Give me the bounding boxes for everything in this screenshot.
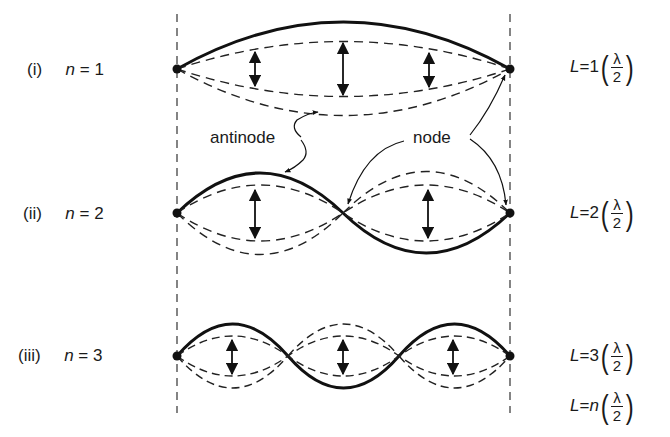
multiplier: n (589, 396, 598, 416)
fraction: λ 2 (611, 197, 623, 230)
n-variable: n (65, 204, 74, 223)
L-variable: L (570, 396, 579, 416)
equals-sign: = (78, 346, 88, 365)
L-variable: L (570, 57, 579, 77)
row-label-3: (iii) n = 3 (18, 346, 102, 366)
multiplier: 1 (589, 57, 598, 77)
antinode-label: antinode (210, 128, 275, 148)
equals-sign: = (579, 57, 589, 77)
right-paren: ) (625, 339, 633, 373)
n-variable: n (66, 60, 75, 79)
n-value: 3 (93, 346, 102, 365)
wave-n1 (173, 22, 515, 116)
denominator: 2 (613, 68, 621, 84)
node-dot (173, 65, 182, 74)
fraction: λ 2 (611, 390, 623, 423)
roman-numeral: (ii) (23, 204, 42, 224)
wave-n2 (173, 172, 515, 255)
numerator: λ (611, 390, 623, 407)
left-paren: ( (601, 50, 609, 84)
equals-sign: = (80, 60, 90, 79)
equals-sign: = (579, 346, 589, 366)
n-value: 2 (94, 204, 103, 223)
equation-1: L = 1 ( λ 2 ) (570, 50, 635, 84)
left-paren: ( (601, 389, 609, 423)
numerator: λ (611, 197, 623, 214)
numerator: λ (611, 51, 623, 68)
node-label: node (413, 128, 451, 148)
denominator: 2 (613, 407, 621, 423)
fraction: λ 2 (611, 51, 623, 84)
row-label-2: (ii) n = 2 (23, 204, 104, 224)
denominator: 2 (613, 357, 621, 373)
right-paren: ) (625, 389, 633, 423)
equation-3: L = 3 ( λ 2 ) (570, 339, 635, 373)
L-variable: L (570, 346, 579, 366)
roman-numeral: (iii) (18, 346, 41, 366)
n-variable: n (64, 346, 73, 365)
wave-n3 (173, 324, 515, 388)
numerator: λ (611, 340, 623, 357)
roman-numeral: (i) (27, 60, 42, 80)
annotation-pointers (285, 75, 506, 205)
fraction: λ 2 (611, 340, 623, 373)
denominator: 2 (613, 214, 621, 230)
node-dot (506, 65, 515, 74)
equation-2: L = 2 ( λ 2 ) (570, 196, 635, 230)
multiplier: 2 (589, 203, 598, 223)
left-paren: ( (601, 339, 609, 373)
equals-sign: = (80, 204, 90, 223)
row-label-1: (i) n = 1 (27, 60, 104, 80)
node-dot (173, 209, 182, 218)
n-value: 1 (94, 60, 103, 79)
equals-sign: = (579, 396, 589, 416)
node-dot (506, 352, 515, 361)
equation-general: L = n ( λ 2 ) (570, 389, 635, 423)
right-paren: ) (625, 50, 633, 84)
equals-sign: = (579, 203, 589, 223)
L-variable: L (570, 203, 579, 223)
right-paren: ) (625, 196, 633, 230)
multiplier: 3 (589, 346, 598, 366)
node-dot (506, 209, 515, 218)
left-paren: ( (601, 196, 609, 230)
node-dot (173, 352, 182, 361)
